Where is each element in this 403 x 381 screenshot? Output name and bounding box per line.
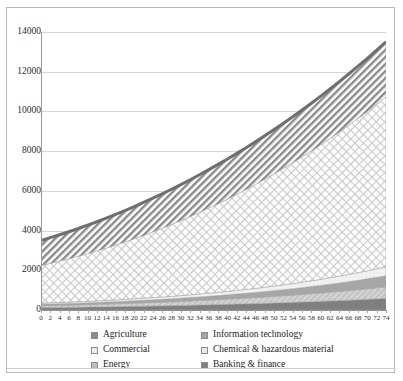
x-axis-tick-label: 48 (261, 312, 268, 325)
x-axis-tick-label: 2 (49, 312, 53, 325)
x-axis-tick-label: 74 (383, 312, 390, 325)
x-axis-tick-label: 70 (364, 312, 371, 325)
x-axis-tick-label: 56 (299, 312, 306, 325)
legend-item[interactable]: Chemical & hazardous material (201, 343, 334, 357)
stacked-area-series (41, 32, 386, 310)
x-axis-tick-label: 66 (345, 312, 352, 325)
legend-label: Commercial (103, 345, 150, 355)
x-axis-tick-label: 42 (233, 312, 240, 325)
legend-swatch-icon (201, 347, 208, 354)
legend-item[interactable]: Commercial (91, 343, 150, 357)
x-axis-tick-label: 64 (336, 312, 343, 325)
y-axis-tick-label: 12000 (17, 67, 41, 77)
x-axis-tick-label: 72 (373, 312, 380, 325)
y-axis-tick-label: 10000 (17, 107, 41, 117)
x-axis-tick-label: 0 (39, 312, 43, 325)
legend-swatch-icon (91, 347, 98, 354)
x-axis-tick-label: 22 (140, 312, 147, 325)
legend-column-right: Information technologyChemical & hazardo… (201, 328, 334, 373)
x-axis-tick-label: 44 (243, 312, 250, 325)
plot-area (41, 32, 386, 310)
x-axis-tick-label: 60 (317, 312, 324, 325)
x-axis-tick-label: 18 (121, 312, 128, 325)
legend-item[interactable]: Agriculture (91, 328, 150, 342)
chart-figure: 02000400060008000100001200014000 (6, 7, 395, 373)
legend-swatch-icon (91, 332, 98, 339)
x-axis-tick-label: 36 (205, 312, 212, 325)
x-axis-tick-label: 24 (149, 312, 156, 325)
x-axis-tick-label: 52 (280, 312, 287, 325)
chart-legend: AgricultureCommercialEnergy Information … (41, 328, 386, 372)
legend-column-left: AgricultureCommercialEnergy (91, 328, 150, 373)
y-axis-tick-label: 2000 (22, 266, 41, 276)
legend-label: Chemical & hazardous material (213, 345, 334, 355)
x-axis-tick-label: 40 (224, 312, 231, 325)
y-axis-tick-label: 6000 (22, 186, 41, 196)
x-axis-tick-label: 16 (112, 312, 119, 325)
x-axis-tick-label: 34 (196, 312, 203, 325)
x-axis-tick-label: 62 (327, 312, 334, 325)
x-axis-tick-label: 46 (252, 312, 259, 325)
x-axis-tick-label: 28 (168, 312, 175, 325)
x-axis-tick-label: 8 (77, 312, 81, 325)
x-axis-tick-label: 4 (58, 312, 62, 325)
x-axis-tick-label: 54 (289, 312, 296, 325)
x-axis-tick-label: 12 (93, 312, 100, 325)
legend-item[interactable]: Banking & finance (201, 358, 334, 372)
x-axis-tick-label: 50 (271, 312, 278, 325)
x-axis-tick-label: 38 (215, 312, 222, 325)
legend-swatch-icon (201, 332, 208, 339)
x-axis-tick-labels: 0246810121416182022242628303234363840424… (41, 312, 386, 325)
x-axis-tick-label: 20 (131, 312, 138, 325)
legend-item[interactable]: Energy (91, 358, 150, 372)
y-axis-line (41, 32, 42, 311)
x-axis-tick-label: 6 (67, 312, 71, 325)
x-axis-tick-label: 14 (103, 312, 110, 325)
legend-label: Information technology (213, 330, 303, 340)
plot-wrapper: 02000400060008000100001200014000 (7, 8, 396, 374)
legend-separator (7, 368, 396, 369)
x-axis-tick-label: 68 (355, 312, 362, 325)
legend-item[interactable]: Information technology (201, 328, 334, 342)
x-axis-tick-label: 58 (308, 312, 315, 325)
x-axis-tick-label: 10 (84, 312, 91, 325)
x-axis-line (41, 310, 386, 311)
y-axis-tick-label: 4000 (22, 226, 41, 236)
x-axis-tick-label: 32 (187, 312, 194, 325)
x-axis-tick-label: 26 (159, 312, 166, 325)
y-axis-tick-labels: 02000400060008000100001200014000 (7, 8, 45, 318)
legend-label: Agriculture (103, 330, 147, 340)
y-axis-tick-label: 14000 (17, 27, 41, 37)
x-axis-tick-label: 30 (177, 312, 184, 325)
y-axis-tick-label: 8000 (22, 146, 41, 156)
